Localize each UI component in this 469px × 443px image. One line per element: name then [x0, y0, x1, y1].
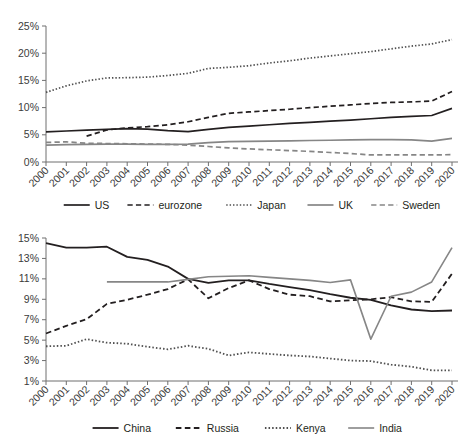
y-tick-label: 25%	[18, 20, 39, 32]
x-tick-label: 2006	[148, 164, 173, 189]
legend-item-eurozone[interactable]: eurozone	[127, 199, 202, 211]
x-tick-label: 2004	[107, 383, 132, 408]
x-tick-label: 2014	[310, 383, 335, 408]
x-tick-label: 2006	[148, 383, 173, 408]
x-tick-label: 2018	[391, 164, 416, 189]
x-tick-label: 2012	[270, 383, 295, 408]
x-tick-label: 2002	[67, 383, 92, 408]
legend-label-us: US	[95, 199, 110, 211]
x-tick-label: 2020	[432, 164, 457, 189]
legend-label-russia: Russia	[207, 422, 239, 434]
x-tick-label: 2011	[250, 383, 275, 408]
x-tick-label: 2015	[330, 164, 355, 189]
x-tick-label: 2010	[229, 383, 254, 408]
y-tick-label: 1%	[24, 375, 39, 387]
x-tick-label: 2009	[209, 383, 234, 408]
x-tick-label: 2019	[412, 383, 437, 408]
series-line-sweden	[46, 142, 452, 155]
legend-label-eurozone: eurozone	[158, 199, 202, 211]
legend-item-us[interactable]: US	[64, 199, 110, 211]
y-tick-label: 13%	[18, 252, 39, 264]
x-tick-label: 2003	[87, 383, 112, 408]
x-tick-label: 2019	[412, 164, 437, 189]
x-tick-label: 2016	[351, 383, 376, 408]
y-tick-label: 5%	[24, 128, 39, 140]
x-tick-label: 2018	[391, 383, 416, 408]
x-tick-label: 2004	[107, 164, 132, 189]
x-tick-label: 2008	[188, 383, 213, 408]
x-tick-label: 2017	[371, 383, 396, 408]
x-tick-label: 2007	[168, 383, 193, 408]
legend-item-uk[interactable]: UK	[307, 199, 353, 211]
x-tick-label: 2017	[371, 164, 396, 189]
x-tick-label: 2011	[250, 164, 275, 189]
x-tick-label: 2009	[209, 164, 234, 189]
y-tick-label: 0%	[24, 156, 39, 168]
y-tick-label: 10%	[18, 101, 39, 113]
x-tick-label: 2020	[432, 383, 457, 408]
x-tick-label: 2012	[270, 164, 295, 189]
x-tick-label: 2007	[168, 164, 193, 189]
y-tick-label: 5%	[24, 334, 39, 346]
y-tick-label: 20%	[18, 47, 39, 59]
legend-item-china[interactable]: China	[93, 422, 152, 434]
x-tick-label: 2016	[351, 164, 376, 189]
y-tick-label: 7%	[24, 313, 39, 325]
x-tick-label: 2013	[290, 164, 315, 189]
legend-label-india: India	[379, 422, 402, 434]
legend-label-kenya: Kenya	[296, 422, 326, 434]
legend-item-sweden[interactable]: Sweden	[371, 199, 440, 211]
legend-label-china: China	[124, 422, 152, 434]
x-tick-label: 2010	[229, 164, 254, 189]
series-line-kenya	[46, 339, 452, 370]
x-tick-label: 2002	[67, 164, 92, 189]
series-line-india	[107, 248, 452, 339]
y-tick-label: 15%	[18, 74, 39, 86]
legend-label-japan: Japan	[257, 199, 286, 211]
x-tick-label: 2001	[46, 383, 71, 408]
x-tick-label: 2013	[290, 383, 315, 408]
figure-root: 0%5%10%15%20%25%200020012002200320042005…	[0, 0, 469, 443]
x-tick-label: 2001	[46, 164, 71, 189]
x-tick-label: 2014	[310, 164, 335, 189]
series-line-japan	[46, 40, 452, 93]
chart-svg-advanced-economies: 0%5%10%15%20%25%200020012002200320042005…	[0, 0, 469, 220]
y-tick-label: 3%	[24, 354, 39, 366]
legend-item-japan[interactable]: Japan	[226, 199, 286, 211]
chart-panel-emerging-economies: 1%3%5%7%9%11%13%15%200020012002200320042…	[0, 220, 469, 443]
legend-label-sweden: Sweden	[402, 199, 440, 211]
x-tick-label: 2005	[127, 383, 152, 408]
legend-label-uk: UK	[338, 199, 353, 211]
chart-panel-advanced-economies: 0%5%10%15%20%25%200020012002200320042005…	[0, 0, 469, 220]
y-tick-label: 9%	[24, 293, 39, 305]
legend-item-india[interactable]: India	[348, 422, 402, 434]
legend-item-russia[interactable]: Russia	[176, 422, 239, 434]
chart-svg-emerging-economies: 1%3%5%7%9%11%13%15%200020012002200320042…	[0, 220, 469, 443]
x-tick-label: 2003	[87, 164, 112, 189]
y-tick-label: 11%	[19, 272, 39, 284]
legend-item-kenya[interactable]: Kenya	[265, 422, 326, 434]
y-tick-label: 15%	[18, 232, 39, 244]
series-line-china	[46, 243, 452, 311]
x-tick-label: 2005	[127, 164, 152, 189]
x-tick-label: 2015	[330, 383, 355, 408]
x-tick-label: 2008	[188, 164, 213, 189]
